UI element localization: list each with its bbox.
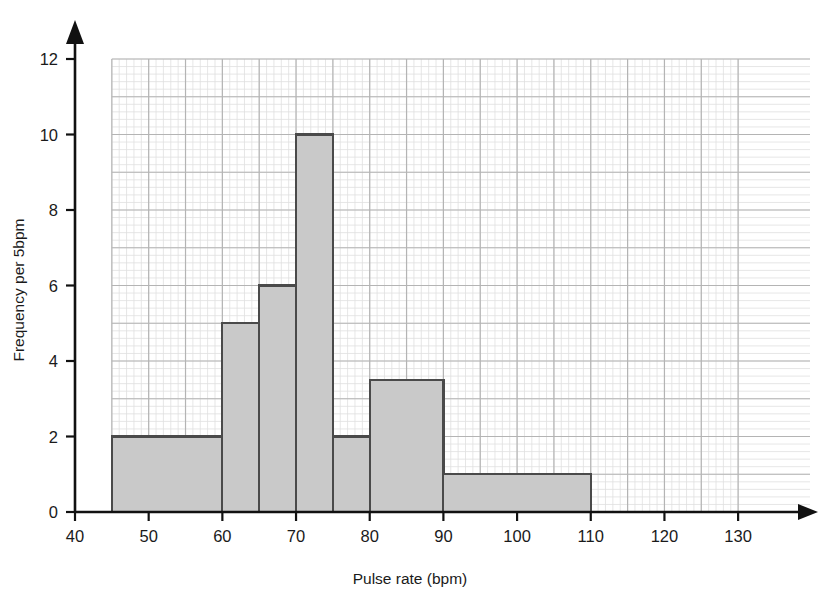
chart-container: 405060708090100110120130 024681012 Pulse… xyxy=(0,0,819,599)
histogram-bar xyxy=(370,380,444,512)
x-tick-label: 60 xyxy=(213,527,231,545)
histogram-bar xyxy=(443,474,590,512)
y-tick-label: 8 xyxy=(49,201,58,219)
y-tick-label: 6 xyxy=(49,277,58,295)
y-axis-title: Frequency per 5bpm xyxy=(10,218,27,361)
x-tick-label: 110 xyxy=(578,527,604,545)
histogram-bar xyxy=(112,437,223,513)
x-tick-label: 120 xyxy=(651,527,679,545)
histogram-bar xyxy=(333,437,370,513)
x-tick-label: 40 xyxy=(66,527,84,545)
histogram-bar xyxy=(259,286,296,513)
histogram-chart: 405060708090100110120130 024681012 Pulse… xyxy=(0,0,819,599)
x-tick-label: 100 xyxy=(503,527,531,545)
y-tick-label: 2 xyxy=(49,428,58,446)
x-tick-label: 130 xyxy=(724,527,752,545)
x-tick-label: 90 xyxy=(434,527,452,545)
y-tick-label: 12 xyxy=(40,50,58,68)
x-tick-label: 80 xyxy=(361,527,379,545)
histogram-bar xyxy=(222,323,259,512)
y-tick-label: 0 xyxy=(49,503,58,521)
y-tick-label: 4 xyxy=(49,352,58,370)
x-tick-label: 50 xyxy=(140,527,158,545)
x-tick-label: 70 xyxy=(287,527,305,545)
histogram-bar xyxy=(296,135,333,513)
x-axis-title: Pulse rate (bpm) xyxy=(353,570,468,587)
y-tick-label: 10 xyxy=(40,126,58,144)
